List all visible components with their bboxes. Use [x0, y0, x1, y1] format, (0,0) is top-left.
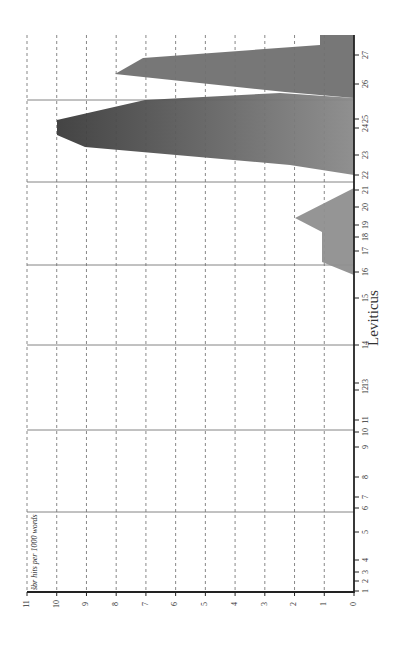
x-tick-label: 25	[361, 115, 370, 123]
y-tick-label: 11	[22, 600, 31, 608]
x-tick-label: 2	[361, 579, 370, 583]
y-tick-label: 1	[319, 602, 328, 606]
x-tick-label: 4	[361, 558, 370, 562]
y-tick-label: 6	[170, 602, 179, 606]
x-tick-label: 17	[361, 247, 370, 255]
y-tick-label: 8	[111, 602, 120, 606]
y-tick-label: 10	[52, 600, 61, 608]
x-tick-label: 21	[361, 186, 370, 194]
chart: 1234567891011121314151617181920212223242…	[0, 0, 406, 648]
x-tick-label: 18	[361, 233, 370, 241]
x-tick-label: 10	[361, 428, 370, 436]
x-tick-label: 23	[361, 151, 370, 159]
data-area	[115, 35, 354, 98]
x-tick-label: 16	[361, 268, 370, 276]
x-tick-label: 3	[361, 570, 370, 574]
x-tick-label: 19	[361, 221, 370, 229]
x-tick-label: 1	[361, 589, 370, 593]
y-tick-label: 0	[349, 602, 358, 606]
x-axis-title: Leviticus	[365, 290, 381, 346]
y-tick-label: 4	[230, 602, 239, 606]
x-tick-label: 7	[361, 495, 370, 499]
x-tick-label: 24	[361, 124, 370, 132]
y-axis-ticks: 01234567891011	[22, 592, 358, 608]
y-tick-label: 7	[141, 602, 150, 606]
x-tick-label: 8	[361, 475, 370, 479]
x-tick-label: 6	[361, 506, 370, 510]
x-tick-label: 27	[361, 51, 370, 59]
data-area	[295, 188, 354, 275]
y-tick-label: 9	[81, 602, 90, 606]
x-tick-label: 26	[361, 80, 370, 88]
x-tick-label: 9	[361, 445, 370, 449]
x-tick-label: 13	[361, 379, 370, 387]
x-tick-label: 22	[361, 171, 370, 179]
y-tick-label: 5	[200, 602, 209, 606]
y-axis-title: šbr hits per 1000 words	[30, 514, 39, 590]
x-tick-label: 11	[361, 416, 370, 424]
x-tick-label: 5	[361, 530, 370, 534]
x-tick-label: 20	[361, 203, 370, 211]
y-tick-label: 2	[289, 602, 298, 606]
y-tick-label: 3	[260, 602, 269, 606]
